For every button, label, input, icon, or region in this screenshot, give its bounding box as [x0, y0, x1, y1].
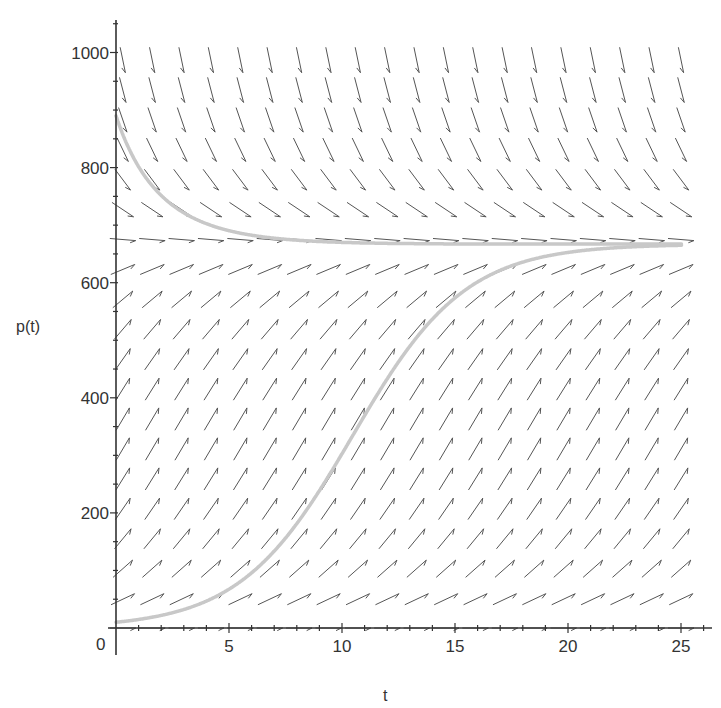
field-arrow: [674, 349, 689, 370]
field-arrow: [671, 291, 691, 308]
y-tick-label: 800: [81, 159, 109, 178]
field-arrow: [351, 468, 365, 490]
field-arrow: [348, 560, 367, 577]
field-arrow: [468, 468, 482, 490]
field-arrow: [673, 529, 690, 549]
field-arrow: [671, 560, 690, 577]
field-arrow: [202, 319, 219, 339]
field-arrow: [150, 47, 155, 72]
field-arrow: [174, 169, 190, 190]
field-arrow: [557, 468, 571, 490]
field-arrow: [586, 408, 599, 430]
field-arrow: [554, 291, 574, 308]
field-arrow: [318, 291, 338, 308]
field-arrow: [467, 529, 484, 549]
field-arrow: [465, 291, 485, 308]
field-arrow: [648, 77, 655, 102]
field-arrow: [524, 291, 544, 308]
field-arrow: [232, 319, 249, 339]
field-arrow: [645, 378, 659, 400]
x-tick-label: 5: [224, 637, 233, 656]
field-arrow: [522, 264, 546, 274]
field-arrow: [498, 408, 511, 430]
field-arrow: [589, 108, 597, 133]
field-arrow: [380, 349, 395, 370]
field-arrow: [554, 560, 573, 577]
field-arrow: [172, 291, 192, 308]
field-arrow: [320, 529, 337, 549]
field-arrow: [265, 108, 273, 133]
field-arrow: [199, 264, 223, 274]
field-arrow: [355, 47, 360, 72]
field-arrow: [201, 560, 220, 577]
field-arrow: [350, 529, 367, 549]
field-arrow: [495, 560, 514, 577]
field-arrow: [561, 47, 566, 72]
field-arrow: [258, 264, 282, 274]
field-arrow: [438, 319, 455, 339]
field-arrow: [174, 498, 189, 519]
field-arrow: [551, 264, 575, 274]
field-arrow: [147, 138, 158, 161]
field-arrow: [115, 498, 130, 519]
field-arrow: [381, 438, 394, 460]
field-arrow: [236, 108, 244, 133]
field-arrow: [148, 108, 156, 133]
field-arrow: [644, 349, 659, 370]
field-arrow: [499, 138, 510, 161]
field-arrow: [262, 498, 277, 519]
field-arrow: [141, 202, 163, 216]
field-arrow: [139, 238, 165, 242]
field-arrow: [324, 108, 332, 133]
field-arrow: [466, 560, 485, 577]
field-arrow: [379, 169, 395, 190]
y-tick-label: 600: [81, 274, 109, 293]
field-arrow: [585, 529, 602, 549]
field-arrow: [551, 238, 577, 242]
field-arrow: [497, 169, 513, 190]
field-arrow: [292, 438, 305, 460]
field-arrow: [674, 378, 688, 400]
field-arrow: [678, 77, 685, 102]
field-arrow: [235, 138, 246, 161]
field-arrow: [590, 47, 595, 72]
field-arrow: [376, 202, 398, 216]
field-arrow: [144, 529, 161, 549]
field-arrow: [557, 378, 571, 400]
field-arrow: [524, 560, 543, 577]
field-arrow: [610, 594, 634, 605]
field-arrow: [114, 319, 131, 339]
field-arrow: [615, 349, 630, 370]
field-arrow: [434, 264, 458, 274]
field-arrow: [238, 47, 243, 72]
field-arrow: [234, 438, 247, 460]
field-arrow: [496, 529, 513, 549]
field-arrow: [172, 560, 191, 577]
field-arrow: [204, 498, 219, 519]
field-arrow: [439, 438, 452, 460]
field-arrow: [462, 238, 488, 242]
field-arrow: [207, 108, 215, 133]
field-arrow: [320, 319, 337, 339]
field-arrow: [615, 468, 629, 490]
field-arrow: [322, 438, 335, 460]
field-arrow: [267, 47, 272, 72]
field-arrow: [645, 408, 658, 430]
field-arrow: [291, 169, 307, 190]
field-arrow: [497, 498, 512, 519]
field-arrow: [581, 594, 605, 605]
field-arrow: [556, 169, 572, 190]
field-arrow: [115, 349, 130, 370]
field-arrow: [527, 378, 541, 400]
field-arrow: [468, 169, 484, 190]
direction-field-chart: 510152025 2004006008001000 0 t p(t): [0, 0, 721, 708]
field-arrow: [116, 378, 130, 400]
field-arrow: [228, 264, 252, 274]
field-arrow: [203, 529, 220, 549]
field-arrow: [119, 77, 126, 102]
field-arrow: [229, 202, 251, 216]
field-arrow: [178, 77, 185, 102]
x-tick-label: 25: [672, 637, 691, 656]
field-arrow: [287, 594, 311, 605]
field-arrow: [409, 349, 424, 370]
